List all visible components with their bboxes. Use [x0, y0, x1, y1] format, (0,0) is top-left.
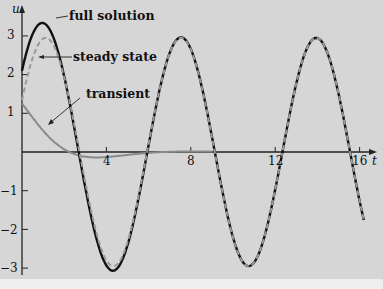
y-axis-arrow-icon — [19, 5, 25, 13]
y-tick-label-3: 3 — [7, 28, 15, 42]
x-tick-label-4: 4 — [103, 154, 111, 168]
steady-state-annotation: steady state — [73, 49, 157, 64]
y-tick-label-2: 2 — [7, 66, 15, 80]
full-solution-leader — [56, 16, 68, 18]
steady-arrow-icon — [38, 55, 44, 59]
y-tick-label-neg2: −2 — [0, 223, 18, 237]
plot-svg — [0, 0, 383, 279]
x-tick-label-8: 8 — [187, 154, 195, 168]
y-tick-label-neg3: −3 — [0, 261, 18, 275]
y-tick-label-1: 1 — [7, 105, 15, 119]
transient-leader — [50, 98, 80, 123]
x-tick-label-12: 12 — [268, 154, 283, 168]
transient-annotation: transient — [86, 86, 150, 101]
x-axis-label: t — [372, 154, 377, 168]
transient-curve — [22, 104, 212, 158]
chart-area: u t 3 2 1 −1 −2 −3 4 8 12 16 full soluti… — [0, 0, 383, 289]
y-axis-label: u — [12, 2, 20, 16]
y-tick-label-neg1: −1 — [0, 184, 18, 198]
x-tick-label-16: 16 — [352, 154, 367, 168]
full-solution-annotation: full solution — [69, 8, 154, 23]
page-margin — [0, 279, 383, 289]
